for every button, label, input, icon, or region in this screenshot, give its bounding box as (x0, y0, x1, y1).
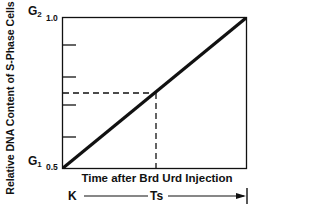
y-ticks (62, 45, 76, 137)
arrow-head (236, 193, 246, 199)
data-line (63, 18, 246, 168)
ts-label: Ts (150, 189, 163, 203)
x-axis-label: Time after Brd Urd Injection (68, 172, 246, 184)
k-label: K (68, 189, 77, 203)
